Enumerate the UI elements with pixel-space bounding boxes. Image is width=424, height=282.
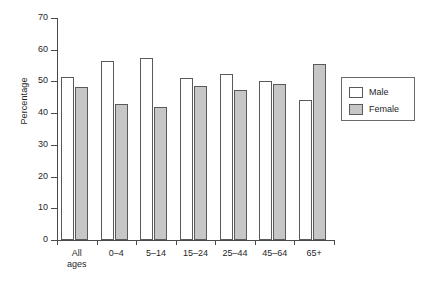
bar-group (140, 18, 167, 240)
x-tick-mark (215, 240, 216, 245)
chart-legend: Male Female (341, 77, 415, 121)
y-tick-label-text: 10 (18, 203, 48, 212)
y-axis-title: Percentage (19, 56, 29, 146)
bar-female-5 (273, 84, 286, 240)
x-tick-mark (176, 240, 177, 245)
y-tick-label-text: 0 (18, 235, 48, 244)
bar-male-5 (259, 81, 272, 240)
plot-area (57, 18, 334, 240)
x-tick-mark (136, 240, 137, 245)
bar-group (61, 18, 88, 240)
bar-group (101, 18, 128, 240)
bar-female-3 (194, 86, 207, 240)
bar-male-0 (61, 77, 74, 240)
y-tick-label: 60 (14, 45, 48, 55)
bar-male-6 (299, 100, 312, 240)
y-tick-label: 30 (14, 140, 48, 150)
y-tick-label-text: 30 (18, 140, 48, 149)
bar-female-2 (154, 107, 167, 240)
legend-item-female: Female (349, 102, 399, 116)
y-tick-label: 10 (14, 203, 48, 213)
bar-male-1 (101, 61, 114, 240)
y-tick-label: 50 (14, 76, 48, 86)
bar-chart: Percentage 010203040506070 All ages0–45–… (0, 0, 424, 282)
bar-female-6 (313, 64, 326, 240)
bar-group (180, 18, 207, 240)
y-tick-label-text: 60 (18, 45, 48, 54)
bar-female-1 (115, 104, 128, 240)
legend-swatch-female-icon (349, 104, 363, 115)
y-tick-label: 40 (14, 108, 48, 118)
bar-male-2 (140, 58, 153, 240)
bar-male-4 (220, 74, 233, 240)
y-tick-label-text: 40 (18, 108, 48, 117)
y-tick-label: 20 (14, 172, 48, 182)
y-tick-label-text: 20 (18, 172, 48, 181)
y-tick-label-text: 70 (18, 13, 48, 22)
x-category-label: 65+ (284, 248, 344, 259)
legend-swatch-male-icon (349, 87, 363, 98)
x-axis-line (57, 240, 334, 241)
bar-group (220, 18, 247, 240)
y-tick-label: 0 (14, 235, 48, 245)
bar-female-4 (234, 90, 247, 240)
legend-label-female: Female (369, 105, 399, 114)
x-tick-mark (97, 240, 98, 245)
bar-female-0 (75, 87, 88, 240)
y-tick-label: 70 (14, 13, 48, 23)
bar-group (259, 18, 286, 240)
bar-male-3 (180, 78, 193, 240)
x-tick-mark (294, 240, 295, 245)
bar-group (299, 18, 326, 240)
legend-label-male: Male (369, 88, 389, 97)
legend-item-male: Male (349, 85, 389, 99)
y-tick-label-text: 50 (18, 76, 48, 85)
x-tick-mark (57, 240, 58, 245)
x-tick-mark (334, 240, 335, 245)
x-tick-mark (255, 240, 256, 245)
